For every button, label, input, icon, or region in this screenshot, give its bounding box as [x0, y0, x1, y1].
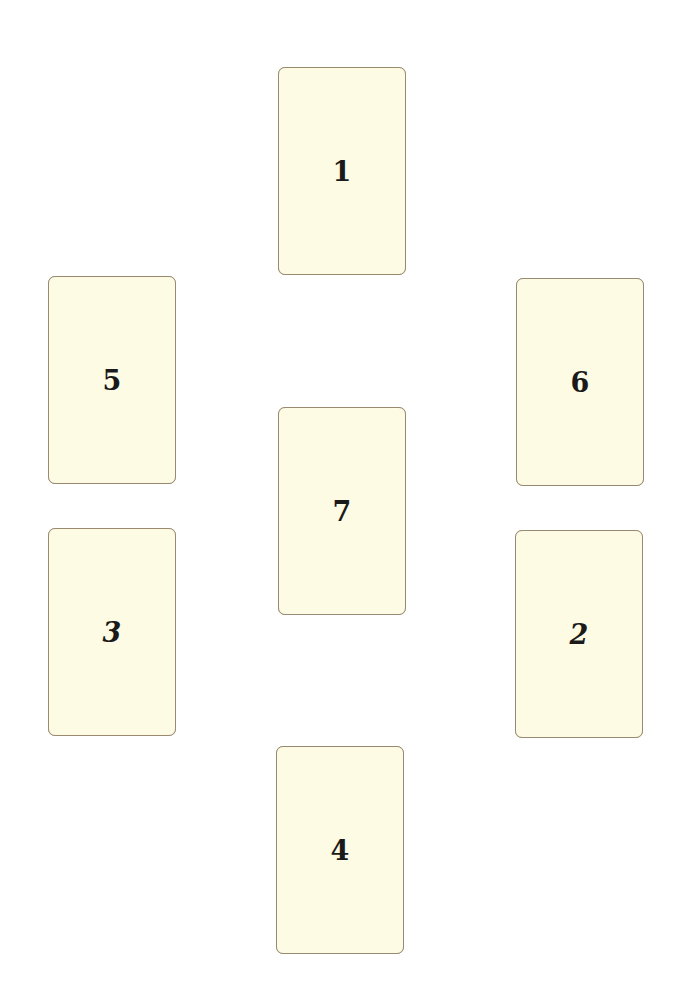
- card-number: 7: [333, 498, 352, 525]
- card-position-5[interactable]: 5: [48, 276, 176, 484]
- card-position-3[interactable]: 3: [48, 528, 176, 736]
- card-position-2[interactable]: 2: [515, 530, 643, 738]
- card-number: 1: [333, 158, 352, 185]
- card-number: 2: [570, 621, 589, 648]
- card-number: 4: [331, 837, 350, 864]
- card-position-1[interactable]: 1: [278, 67, 406, 275]
- card-number: 5: [103, 367, 122, 394]
- card-number: 3: [103, 619, 122, 646]
- card-position-4[interactable]: 4: [276, 746, 404, 954]
- card-number: 6: [571, 369, 590, 396]
- card-position-7[interactable]: 7: [278, 407, 406, 615]
- card-position-6[interactable]: 6: [516, 278, 644, 486]
